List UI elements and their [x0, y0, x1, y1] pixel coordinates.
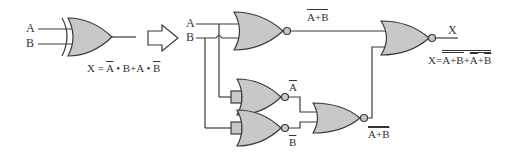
nor-circuit — [196, 12, 458, 146]
final-expression: X=A+B+A+B — [428, 50, 491, 66]
nor1-output-label: A+B — [307, 9, 328, 23]
input-a-label: A — [26, 22, 35, 34]
input-b-label: B — [26, 37, 34, 49]
nor4-output-label: A+B — [368, 126, 389, 140]
logic-diagram — [0, 0, 513, 158]
nor-input-b-label: B — [186, 31, 194, 43]
xor-expression: X = A • B+A • B — [87, 62, 160, 74]
not-b-label: B — [289, 136, 296, 148]
nor-input-a-label: A — [186, 17, 195, 29]
xor-gate — [38, 18, 136, 56]
output-x-label: X — [448, 24, 457, 36]
not-a-label: A — [289, 81, 297, 93]
right-arrow-icon — [148, 25, 178, 51]
